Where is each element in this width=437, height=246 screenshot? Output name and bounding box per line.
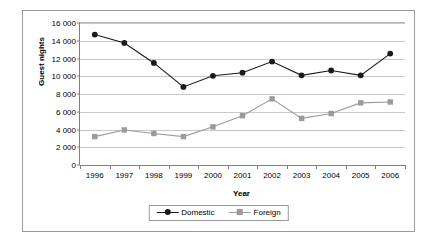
legend-square-marker-icon: [229, 208, 251, 217]
plot-area: 02 0004 0006 0008 00010 00012 00014 0001…: [79, 22, 405, 165]
gridline: [80, 165, 405, 166]
x-axis-tick-mark: [110, 165, 111, 169]
y-axis-tick-label: 12 000: [52, 54, 76, 63]
chart-frame: Guest nights 02 0004 0006 0008 00010 000…: [22, 10, 415, 232]
x-axis-tick-label: 1999: [175, 171, 193, 180]
data-point-marker: [92, 134, 97, 139]
series-plot: [80, 23, 405, 165]
x-axis-tick-label: 2006: [381, 171, 399, 180]
data-point-marker: [151, 131, 156, 136]
y-axis-tick-label: 6 000: [56, 107, 76, 116]
y-axis-tick-label: 0: [72, 161, 76, 170]
x-axis-tick-label: 2001: [234, 171, 252, 180]
y-axis-title: Guest nights: [37, 12, 46, 112]
data-point-marker: [299, 116, 304, 121]
x-axis-tick-label: 2000: [204, 171, 222, 180]
y-axis-tick-label: 10 000: [52, 72, 76, 81]
data-point-marker: [269, 59, 275, 65]
x-axis-tick-mark: [198, 165, 199, 169]
y-axis-tick-label: 14 000: [52, 36, 76, 45]
x-axis-tick-label: 2004: [322, 171, 340, 180]
data-point-marker: [240, 113, 245, 118]
data-point-marker: [92, 32, 98, 38]
legend-label: Domestic: [181, 208, 214, 217]
data-point-marker: [358, 72, 364, 78]
x-axis-tick-mark: [257, 165, 258, 169]
data-point-marker: [210, 124, 215, 129]
data-point-marker: [240, 70, 246, 76]
data-point-marker: [122, 127, 127, 132]
x-axis-tick-label: 1996: [86, 171, 104, 180]
data-point-marker: [121, 40, 127, 46]
data-point-marker: [181, 84, 187, 90]
series-line: [95, 35, 390, 87]
y-axis-tick-label: 16 000: [52, 19, 76, 28]
data-point-marker: [299, 72, 305, 78]
x-axis-tick-mark: [169, 165, 170, 169]
data-point-marker: [181, 134, 186, 139]
data-point-marker: [358, 100, 363, 105]
x-axis-tick-mark: [80, 165, 81, 169]
y-axis-tick-label: 8 000: [56, 90, 76, 99]
y-axis-tick-label: 2 000: [56, 143, 76, 152]
x-axis-tick-mark: [375, 165, 376, 169]
data-point-marker: [388, 99, 393, 104]
x-axis-tick-mark: [316, 165, 317, 169]
data-point-marker: [210, 73, 216, 79]
x-axis-tick-mark: [405, 165, 406, 169]
x-axis-title: Year: [79, 189, 404, 198]
x-axis-tick-label: 1998: [145, 171, 163, 180]
legend-label: Foreign: [254, 208, 281, 217]
data-point-marker: [328, 111, 333, 116]
x-axis-tick-mark: [139, 165, 140, 169]
x-axis-tick-label: 2003: [293, 171, 311, 180]
data-point-marker: [387, 51, 393, 57]
chart-legend: DomesticForeign: [148, 205, 288, 221]
legend-circle-marker-icon: [156, 208, 178, 217]
data-point-marker: [269, 96, 274, 101]
x-axis-tick-label: 2005: [352, 171, 370, 180]
x-axis-tick-mark: [228, 165, 229, 169]
legend-entry-foreign[interactable]: Foreign: [229, 208, 281, 217]
series-domestic: [92, 32, 393, 90]
x-axis-tick-label: 2002: [263, 171, 281, 180]
x-axis-tick-mark: [346, 165, 347, 169]
x-axis-tick-label: 1997: [115, 171, 133, 180]
data-point-marker: [328, 68, 334, 74]
legend-entry-domestic[interactable]: Domestic: [156, 208, 214, 217]
x-axis-tick-mark: [287, 165, 288, 169]
y-axis-tick-label: 4 000: [56, 125, 76, 134]
series-foreign: [92, 96, 393, 139]
data-point-marker: [151, 60, 157, 66]
